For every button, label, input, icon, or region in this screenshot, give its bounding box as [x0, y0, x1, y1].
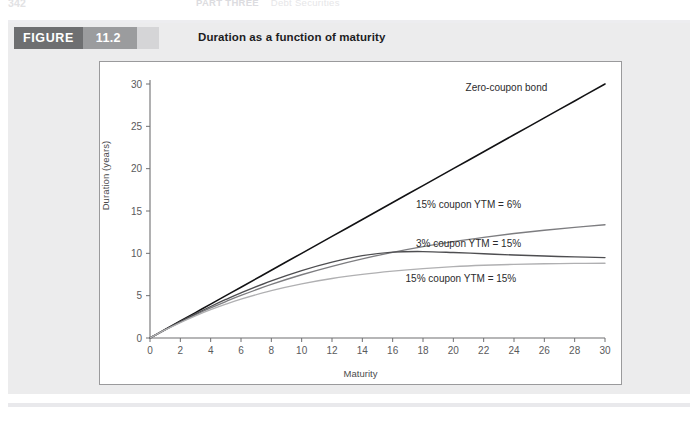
- running-head-part: PART THREE: [196, 0, 259, 8]
- x-tick-label: 20: [448, 345, 460, 356]
- x-tick-label: 6: [238, 345, 244, 356]
- x-tick-label: 24: [508, 345, 520, 356]
- y-tick-label: 5: [136, 290, 142, 301]
- running-head-center: PART THREE Debt Securities: [196, 0, 340, 8]
- x-tick-label: 30: [599, 345, 611, 356]
- figure-panel: FIGURE 11.2 Duration as a function of ma…: [8, 23, 690, 394]
- y-tick-label: 0: [136, 333, 142, 344]
- duration-maturity-chart: 051015202530024681012141618202224262830Z…: [100, 62, 621, 384]
- x-tick-label: 4: [208, 345, 214, 356]
- figure-title: Duration as a function of maturity: [198, 31, 385, 43]
- x-tick-label: 12: [326, 345, 338, 356]
- running-head: 342 PART THREE Debt Securities: [0, 0, 698, 14]
- figure-banner-tail: [137, 27, 159, 49]
- x-tick-label: 26: [539, 345, 551, 356]
- series-label: Zero-coupon bond: [466, 82, 548, 93]
- x-tick-label: 14: [357, 345, 369, 356]
- x-tick-label: 18: [417, 345, 429, 356]
- series-label: 3% coupon YTM = 15%: [416, 238, 521, 249]
- page-folio: 342: [8, 0, 26, 9]
- x-tick-label: 28: [569, 345, 581, 356]
- y-tick-label: 20: [131, 163, 143, 174]
- running-head-section: Debt Securities: [271, 0, 340, 8]
- bottom-divider: [8, 403, 690, 407]
- x-tick-label: 0: [147, 345, 153, 356]
- series-label: 15% coupon YTM = 15%: [406, 273, 517, 284]
- x-tick-label: 2: [178, 345, 184, 356]
- y-tick-label: 25: [131, 121, 143, 132]
- y-tick-label: 30: [131, 79, 143, 90]
- figure-banner: FIGURE 11.2: [14, 27, 159, 49]
- series-line: [150, 225, 605, 338]
- series-line: [150, 84, 605, 338]
- plot-area: Duration (years) Maturity 05101520253002…: [99, 61, 622, 385]
- figure-number: 11.2: [83, 27, 137, 49]
- series-label: 15% coupon YTM = 6%: [416, 199, 521, 210]
- x-tick-label: 8: [269, 345, 275, 356]
- x-tick-label: 16: [387, 345, 399, 356]
- figure-banner-word: FIGURE: [14, 27, 83, 49]
- x-tick-label: 22: [478, 345, 490, 356]
- y-tick-label: 15: [131, 206, 143, 217]
- x-tick-label: 10: [296, 345, 308, 356]
- y-tick-label: 10: [131, 248, 143, 259]
